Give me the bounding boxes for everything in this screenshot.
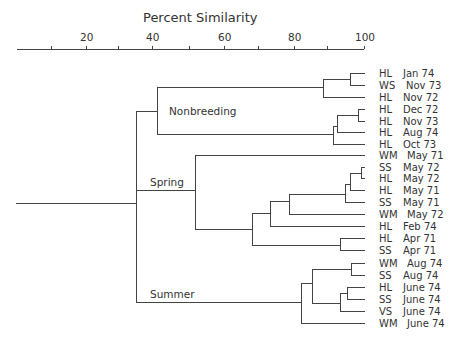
leaf-date: Apr 71 [403,245,436,256]
leaf-site: SS [379,197,392,208]
leaf-site: SS [379,245,392,256]
leaf-date: Dec 72 [403,104,438,115]
leaf-date: June 74 [406,318,445,329]
dendrogram-chart: Percent Similarity 20 40 60 80 100 [0,0,452,340]
leaf-date: Nov 73 [406,80,441,91]
leaf-site: WM [379,209,398,220]
leaf-date: June 74 [402,306,441,317]
leaf-date: Oct 73 [403,139,436,150]
tick-label-40: 40 [146,31,159,43]
leaf-site: WM [379,258,398,269]
group-label-spring: Spring [150,176,184,188]
leaf-date: Feb 74 [403,221,437,232]
leaf-site: SS [379,162,392,173]
leaf-date: June 74 [402,282,441,293]
leaf-site: HL [379,139,393,150]
leaf-date: Aug 74 [403,270,438,281]
leaf-site: WM [379,318,398,329]
leaf-date: Nov 73 [403,116,438,127]
leaf-site: SS [379,270,392,281]
leaf-date: May 71 [403,185,440,196]
leaf-site: HL [379,221,393,232]
axis-title: Percent Similarity [143,10,258,25]
leaf-site: HL [379,92,393,103]
leaf-date: Nov 72 [403,92,438,103]
leaf-site: HL [379,233,393,244]
leaf-date: May 71 [403,197,440,208]
tick-label-60: 60 [218,31,231,43]
leaf-site: SS [379,294,392,305]
group-label-nonbreeding: Nonbreeding [169,105,237,117]
leaf-date: May 72 [403,162,440,173]
group-label-summer: Summer [150,288,195,300]
leaf-site: HL [379,68,393,79]
leaf-site: VS [379,306,392,317]
leaf-date: June 74 [402,294,441,305]
leaf-date: Aug 74 [407,258,442,269]
leaf-site: HL [379,104,393,115]
tick-label-100: 100 [355,31,375,43]
similarity-axis: 20 40 60 80 100 [17,31,375,49]
tick-label-80: 80 [288,31,301,43]
leaf-site: WS [379,80,395,91]
leaf-date: May 71 [407,150,444,161]
leaf-site: WM [379,150,398,161]
leaf-site: HL [379,173,393,184]
leaf-site: HL [379,127,393,138]
leaf-labels: HL Jan 74 WS Nov 73 HL Nov 72 HL Dec 72 … [379,68,445,329]
leaf-date: May 72 [407,209,444,220]
leaf-date: Aug 74 [403,127,438,138]
leaf-site: HL [379,116,393,127]
tick-label-20: 20 [80,31,93,43]
leaf-date: Jan 74 [402,68,434,79]
leaf-date: Apr 71 [403,233,436,244]
leaf-date: May 72 [403,173,440,184]
leaf-site: HL [379,185,393,196]
leaf-site: HL [379,282,393,293]
